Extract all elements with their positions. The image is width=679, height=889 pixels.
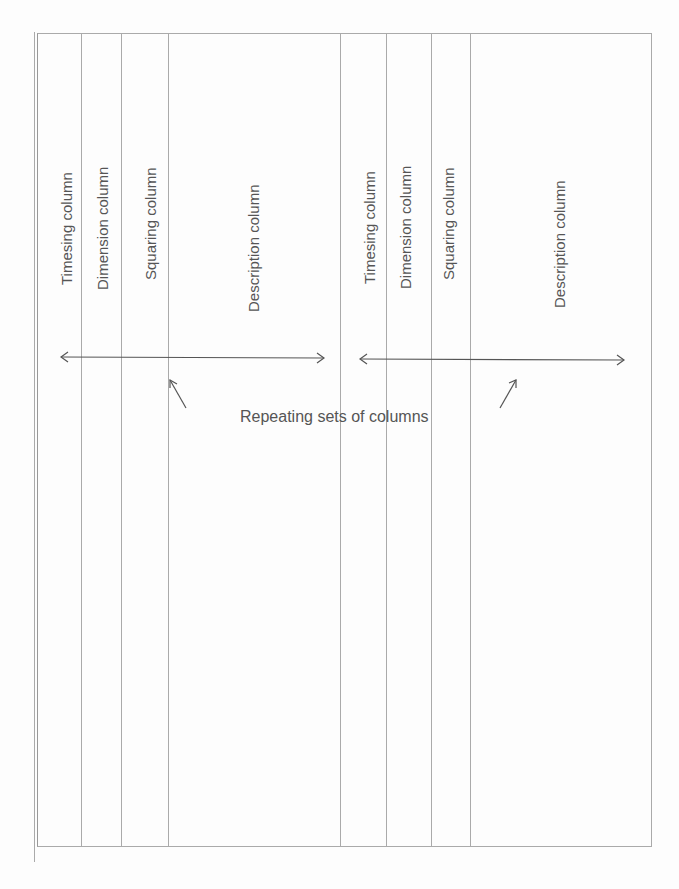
double-arrow-icon (360, 354, 624, 365)
arrows-overlay (0, 0, 679, 889)
pointer-arrow-icon (500, 380, 516, 408)
repeating-sets-caption: Repeating sets of columns (240, 408, 429, 426)
dimension-paper: Timesing column Dimension column Squarin… (0, 0, 679, 889)
pointer-arrow-icon (170, 380, 186, 408)
double-arrow-icon (61, 352, 324, 363)
